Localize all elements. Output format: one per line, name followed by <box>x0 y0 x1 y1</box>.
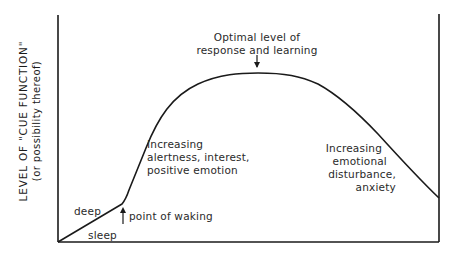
y-axis-label: LEVEL OF "CUE FUNCTION" (or possibility … <box>17 36 42 206</box>
label-sleep: sleep <box>88 229 117 242</box>
label-deep: deep <box>74 205 101 218</box>
annotation-optimal: Optimal level of response and learning <box>182 31 332 57</box>
arrow-up-icon <box>120 207 126 224</box>
y-axis-subtitle: (or possibility thereof) <box>31 36 42 206</box>
annotation-rising: Increasing alertness, interest, positive… <box>147 138 250 177</box>
annotation-falling: Increasing emotional disturbance, anxiet… <box>318 142 398 194</box>
label-point-of-waking: point of waking <box>129 210 213 223</box>
y-axis-title: LEVEL OF "CUE FUNCTION" <box>17 36 29 206</box>
